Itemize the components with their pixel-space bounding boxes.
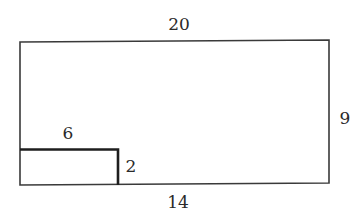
outer-rectangle	[20, 40, 329, 185]
label-bottom-length: 14	[167, 192, 189, 212]
label-top-length: 20	[168, 14, 190, 34]
rectangle-diagram: 20 9 6 2 14	[0, 0, 360, 218]
label-inner-height: 2	[126, 156, 137, 176]
label-inner-width: 6	[63, 123, 74, 143]
inner-rectangle	[20, 150, 118, 186]
label-right-height: 9	[340, 108, 351, 128]
